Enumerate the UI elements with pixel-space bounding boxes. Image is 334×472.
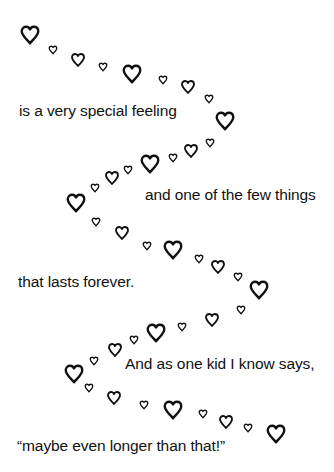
poem-line-2: and one of the few things	[145, 186, 316, 204]
poem-line-3: that lasts forever.	[18, 273, 134, 291]
heart-outline-icon	[177, 322, 187, 332]
heart-outline-icon	[89, 356, 99, 366]
heart-outline-icon	[162, 399, 184, 421]
heart-outline-icon	[168, 153, 178, 163]
heart-outline-icon	[121, 63, 143, 85]
heart-outline-icon	[139, 153, 161, 175]
heart-outline-icon	[145, 322, 167, 344]
heart-outline-icon	[98, 62, 108, 72]
heart-outline-icon	[210, 259, 226, 275]
heart-outline-icon	[204, 312, 220, 328]
heart-outline-icon	[139, 400, 149, 410]
heart-outline-icon	[123, 165, 133, 175]
heart-outline-icon	[106, 390, 122, 406]
heart-outline-icon	[194, 254, 204, 264]
heart-outline-icon	[65, 192, 87, 214]
heart-outline-icon	[114, 225, 130, 241]
heart-outline-icon	[233, 272, 243, 282]
poem-line-1: is a very special feeling	[19, 102, 177, 120]
heart-outline-icon	[158, 75, 168, 85]
heart-outline-icon	[248, 279, 270, 301]
heart-outline-icon	[265, 423, 287, 445]
heart-outline-icon	[218, 414, 234, 430]
heart-outline-icon	[129, 335, 139, 345]
heart-outline-icon	[90, 183, 100, 193]
heart-outline-icon	[205, 138, 215, 148]
heart-outline-icon	[162, 239, 184, 261]
heart-outline-icon	[236, 305, 246, 315]
heart-outline-icon	[204, 94, 214, 104]
heart-outline-icon	[214, 110, 236, 132]
heart-outline-icon	[104, 170, 120, 186]
heart-outline-icon	[70, 52, 86, 68]
heart-outline-icon	[183, 143, 199, 159]
heart-outline-icon	[91, 217, 101, 227]
heart-outline-icon	[198, 409, 208, 419]
poem-line-4: And as one kid I know says,	[125, 355, 314, 373]
heart-outline-icon	[19, 24, 41, 46]
heart-outline-icon	[107, 342, 123, 358]
heart-outline-icon	[243, 423, 253, 433]
heart-outline-icon	[180, 79, 196, 95]
heart-outline-icon	[84, 383, 94, 393]
heart-outline-icon	[142, 241, 152, 251]
poem-line-5: “maybe even longer than that!”	[17, 437, 225, 455]
heart-outline-icon	[63, 363, 85, 385]
heart-outline-icon	[48, 45, 58, 55]
